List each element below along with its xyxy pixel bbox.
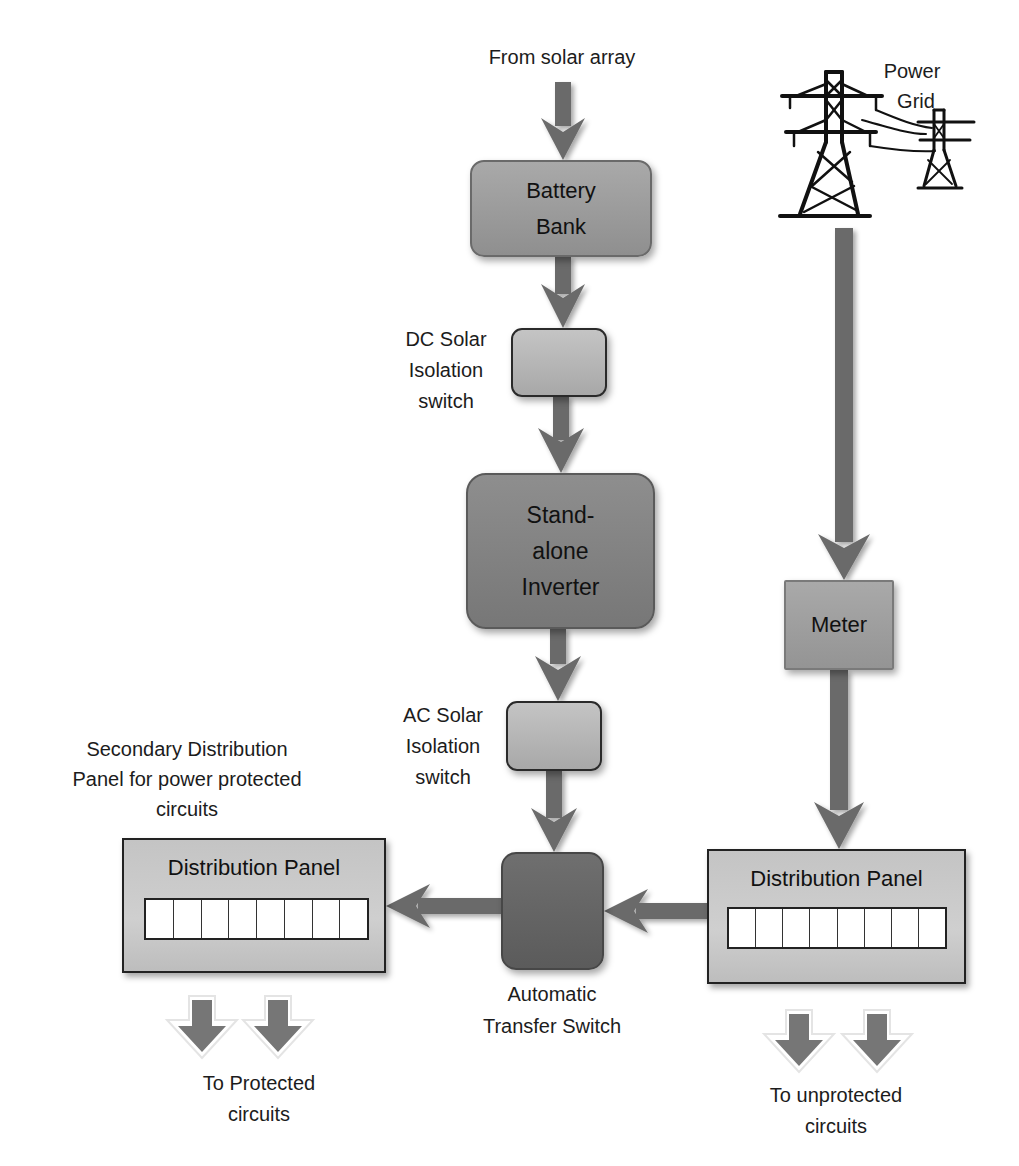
main-distribution-panel: Distribution Panel — [707, 849, 966, 984]
grid-source-label: Power Grid — [870, 56, 954, 116]
breaker-slot — [313, 900, 341, 938]
arrow-grid-to-meter — [818, 228, 870, 580]
solar-grid-power-flow-diagram: From solar array Power Grid Battery Bank… — [0, 0, 1019, 1166]
solar-source-label: From solar array — [462, 42, 662, 73]
ac-switch-line1: AC Solar — [381, 700, 505, 731]
breaker-slot — [783, 909, 810, 947]
unprotected-line2: circuits — [748, 1111, 924, 1142]
inverter-line2: alone — [532, 533, 588, 569]
unprotected-circuits-label: To unprotected circuits — [748, 1080, 924, 1142]
ats-line1: Automatic — [452, 978, 652, 1010]
arrows-to-protected-circuits — [167, 996, 313, 1058]
ats-label: Automatic Transfer Switch — [452, 978, 652, 1042]
breaker-slot — [340, 900, 367, 938]
ac-switch-label: AC Solar Isolation switch — [381, 700, 505, 793]
breaker-slot — [756, 909, 783, 947]
panel-left-title: Distribution Panel — [124, 854, 384, 882]
dc-switch-label: DC Solar Isolation switch — [384, 324, 508, 417]
meter-node: Meter — [784, 580, 894, 670]
caption-line2: Panel for power protected — [40, 764, 334, 794]
breaker-slot — [919, 909, 945, 947]
breaker-slot — [146, 900, 174, 938]
arrow-ac-switch-to-ats — [531, 770, 577, 852]
breaker-slot — [838, 909, 865, 947]
dc-switch-line3: switch — [384, 386, 508, 417]
ac-switch-line2: Isolation — [381, 731, 505, 762]
dc-switch-line2: Isolation — [384, 355, 508, 386]
ac-switch-line3: switch — [381, 762, 505, 793]
breaker-slot — [729, 909, 756, 947]
automatic-transfer-switch-node — [501, 852, 604, 970]
arrow-inverter-to-ac-switch — [535, 628, 581, 701]
arrow-ats-to-panel-left — [386, 884, 501, 928]
caption-line1: Secondary Distribution — [40, 734, 334, 764]
battery-bank-node: Battery Bank — [470, 160, 652, 257]
caption-line3: circuits — [40, 794, 334, 824]
breaker-slot — [202, 900, 230, 938]
unprotected-line1: To unprotected — [748, 1080, 924, 1111]
arrow-panel-right-to-ats — [604, 889, 707, 933]
meter-label: Meter — [811, 607, 867, 643]
grid-label-line2: Grid — [870, 86, 954, 116]
dc-solar-isolation-switch-node — [511, 328, 607, 397]
arrows-to-unprotected-circuits — [764, 1010, 912, 1072]
arrow-solar-to-battery — [541, 82, 585, 160]
protected-circuits-label: To Protected circuits — [176, 1068, 342, 1130]
ats-line2: Transfer Switch — [452, 1010, 652, 1042]
secondary-distribution-panel: Distribution Panel — [122, 838, 386, 973]
arrow-meter-to-panel-right — [814, 670, 864, 849]
battery-bank-line2: Bank — [536, 209, 586, 245]
protected-line2: circuits — [176, 1099, 342, 1130]
breaker-slot — [810, 909, 837, 947]
arrow-battery-to-dc-switch — [541, 256, 585, 328]
secondary-panel-caption: Secondary Distribution Panel for power p… — [40, 734, 334, 824]
breaker-row — [727, 907, 947, 949]
panel-right-title: Distribution Panel — [709, 865, 964, 893]
breaker-slot — [892, 909, 919, 947]
breaker-slot — [257, 900, 285, 938]
solar-source-text: From solar array — [489, 46, 636, 68]
grid-label-line1: Power — [870, 56, 954, 86]
ac-solar-isolation-switch-node — [506, 701, 602, 771]
breaker-slot — [865, 909, 892, 947]
standalone-inverter-node: Stand- alone Inverter — [466, 473, 655, 629]
breaker-row — [144, 898, 369, 940]
protected-line1: To Protected — [176, 1068, 342, 1099]
breaker-slot — [229, 900, 257, 938]
dc-switch-line1: DC Solar — [384, 324, 508, 355]
breaker-slot — [174, 900, 202, 938]
breaker-slot — [285, 900, 313, 938]
inverter-line3: Inverter — [522, 569, 600, 605]
battery-bank-line1: Battery — [526, 173, 596, 209]
inverter-line1: Stand- — [527, 497, 595, 533]
arrow-dc-switch-to-inverter — [538, 396, 584, 473]
